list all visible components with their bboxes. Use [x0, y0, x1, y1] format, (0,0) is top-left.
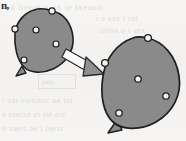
large-blob-body — [102, 37, 180, 129]
small-blob-interior-dot-3 — [21, 57, 27, 63]
large-blob-interior-dot-1 — [135, 76, 141, 82]
small-blob-edge-circle-top-right — [49, 8, 55, 14]
transformation-arrow — [62, 49, 104, 76]
figure-svg — [0, 0, 186, 141]
arrow-head — [83, 57, 104, 76]
figure-container: d lteeat u ex ie txeaoit i e axe t ixt i… — [0, 0, 186, 141]
small-blob-edge-circle-left — [12, 26, 18, 32]
large-blob-edge-circle-top-right — [145, 35, 152, 42]
large-blob-edge-circle-left — [102, 60, 109, 67]
small-blob-interior-dot-2 — [53, 41, 59, 47]
large-blob-interior-dot-3 — [116, 110, 122, 116]
small-blob-group — [12, 8, 73, 76]
small-blob-interior-dot-1 — [33, 27, 39, 33]
large-blob-group — [102, 35, 180, 133]
large-blob-interior-dot-2 — [163, 93, 169, 99]
